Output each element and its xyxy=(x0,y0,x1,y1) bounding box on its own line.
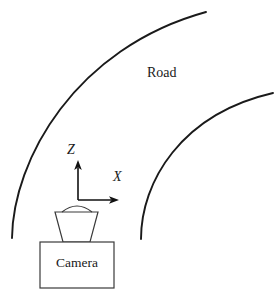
x-axis-label: X xyxy=(113,170,122,184)
camera-label: Camera xyxy=(40,256,114,270)
diagram-canvas xyxy=(0,0,278,298)
z-axis-label: Z xyxy=(67,143,75,157)
road-label: Road xyxy=(147,66,177,80)
camera-lens-trapezoid xyxy=(55,212,98,242)
inner-road-edge-path xyxy=(141,93,273,239)
road-camera-diagram: Road Camera Z X xyxy=(0,0,278,298)
camera-dome-arc xyxy=(62,206,92,212)
outer-road-edge-path xyxy=(12,12,206,238)
